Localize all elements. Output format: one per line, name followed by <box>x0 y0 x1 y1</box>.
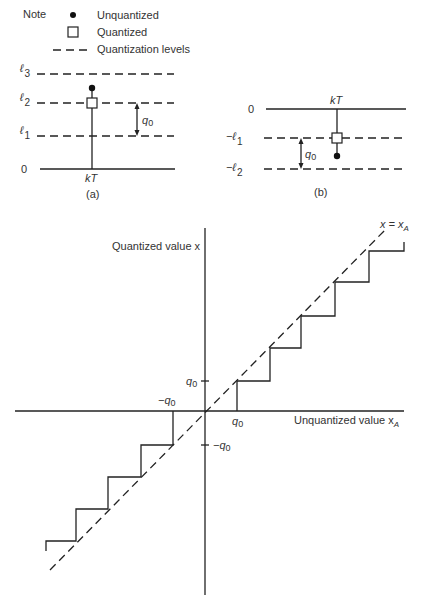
arrow-down-icon <box>135 130 140 136</box>
caption-a: (a) <box>86 188 99 200</box>
level-neg-l1-label: −ℓ1 <box>226 130 243 147</box>
tick-label-neg-q0-y: −q0 <box>213 439 231 453</box>
ideal-diagonal-line <box>50 230 385 570</box>
main-plot: Quantized value x Unquantized value xA x… <box>15 218 409 595</box>
filled-dot-icon <box>70 12 76 18</box>
kt-label: kT <box>330 94 344 106</box>
step-q0-label: q0 <box>142 114 153 128</box>
zero-label: 0 <box>21 163 27 175</box>
figure-b: 0 −ℓ1 −ℓ2 q0 kT (b) <box>226 94 406 198</box>
tick-label-q0-x: q0 <box>232 415 243 429</box>
figure-a: ℓ3 ℓ2 ℓ1 0 q0 kT (a) <box>19 62 175 200</box>
quantized-square <box>332 133 342 143</box>
unquantized-dot <box>334 153 340 159</box>
legend: Note Unquantized Quantized Quantization … <box>23 8 190 55</box>
quantizer-staircase-negative <box>46 411 173 551</box>
arrow-up-icon <box>135 103 140 109</box>
tick-label-q0-y: q0 <box>186 375 197 389</box>
arrow-down-icon <box>299 163 304 169</box>
level-neg-l2-label: −ℓ2 <box>226 161 243 178</box>
step-q0-label: q0 <box>305 148 316 162</box>
quantized-square <box>87 98 97 108</box>
zero-label: 0 <box>248 103 254 115</box>
quantization-diagram: Note Unquantized Quantized Quantization … <box>0 0 422 612</box>
open-square-icon <box>68 27 78 37</box>
legend-title: Note <box>23 8 46 20</box>
level-l2-label: ℓ2 <box>19 91 31 108</box>
unquantized-dot <box>89 85 95 91</box>
legend-quantized: Quantized <box>97 26 147 38</box>
legend-unquantized: Unquantized <box>97 9 159 21</box>
y-axis-label: Quantized value x <box>112 240 201 252</box>
caption-b: (b) <box>314 186 327 198</box>
tick-label-neg-q0-x: −q0 <box>158 394 176 408</box>
arrow-up-icon <box>299 138 304 144</box>
level-l3-label: ℓ3 <box>19 62 31 79</box>
level-l1-label: ℓ1 <box>19 124 31 141</box>
kt-label: kT <box>85 172 99 184</box>
quantizer-staircase-positive <box>237 242 404 411</box>
x-axis-label: Unquantized value xA <box>294 414 399 429</box>
legend-levels: Quantization levels <box>97 43 190 55</box>
